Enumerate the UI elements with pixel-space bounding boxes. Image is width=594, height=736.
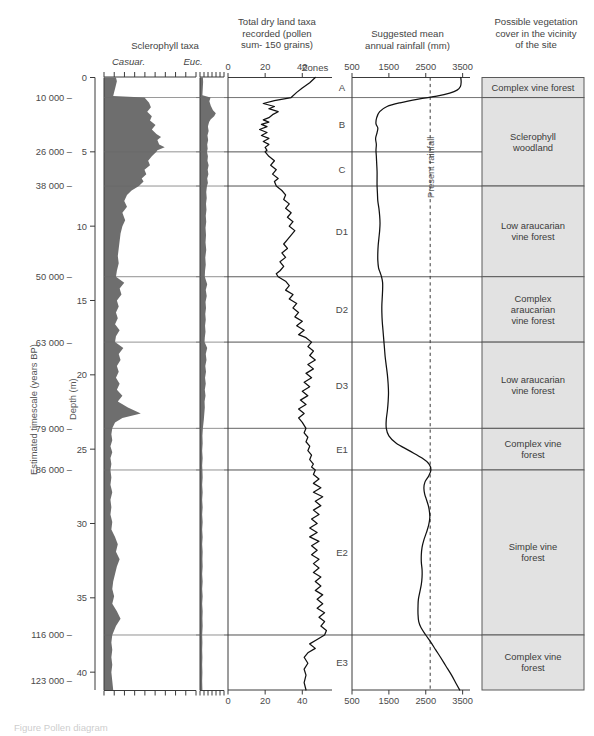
total-dry-land-taxa-curve (260, 78, 327, 691)
vegetation-label: woodland (512, 142, 553, 153)
rainfall-bottom-tick-label: 2500 (415, 696, 436, 706)
suggested-rainfall-curve (376, 78, 462, 691)
zone-label: D3 (336, 380, 348, 391)
zone-label: A (339, 82, 346, 93)
depth-tick-label: 35 (77, 593, 87, 603)
zone-label: E2 (336, 547, 348, 558)
vegetation-label: vine forest (511, 315, 555, 326)
timescale-tick-label: 38 000 – (36, 181, 73, 191)
rainfall-bottom-tick-label: 3500 (452, 696, 473, 706)
timescale-tick-label: 123 000 – (31, 676, 73, 686)
timescale-tick-label: 26 000 – (36, 147, 73, 157)
timescale-tick-label: 10 000 – (36, 93, 73, 103)
depth-tick-label: 40 (77, 668, 87, 678)
zone-label: E3 (336, 657, 348, 668)
vegetation-label: Complex vine (505, 438, 562, 449)
vegetation-label: Complex vine (505, 651, 562, 662)
depth-tick-label: 25 (77, 445, 87, 455)
diagram-canvas: 051015202530354010 000 –26 000 –38 000 –… (0, 0, 594, 736)
rainfall-bottom-tick-label: 500 (344, 696, 360, 706)
depth-tick-label: 10 (77, 222, 87, 232)
vegetation-label: vine forest (511, 231, 555, 242)
rainfall-top-tick-label: 2500 (415, 62, 436, 72)
taxa-bottom-tick-label: 40 (297, 696, 307, 706)
rainfall-top-tick-label: 500 (344, 62, 360, 72)
figure-caption: Figure Pollen diagram (14, 722, 108, 733)
timescale-tick-label: 50 000 – (36, 272, 73, 282)
vegetation-label: Complex vine forest (492, 82, 575, 93)
taxa-top-tick-label: 0 (225, 62, 230, 72)
taxa-bottom-tick-label: 0 (225, 696, 230, 706)
timescale-tick-label: 116 000 – (31, 630, 72, 640)
depth-tick-label: 5 (82, 147, 87, 157)
rainfall-bottom-tick-label: 1500 (379, 696, 400, 706)
pollen-diagram-figure: Sclerophyll taxa Casuar. Euc. Total dry … (0, 0, 594, 736)
vegetation-label: Complex (515, 293, 552, 304)
vegetation-label: Low araucarian (501, 220, 565, 231)
zone-label: C (339, 164, 346, 175)
zone-label: D2 (336, 304, 348, 315)
depth-tick-label: 15 (77, 296, 87, 306)
depth-tick-label: 0 (82, 73, 87, 83)
timescale-tick-label: 63 000 – (36, 338, 73, 348)
vegetation-label: Sclerophyll (510, 131, 556, 142)
vegetation-label: forest (521, 449, 545, 460)
rainfall-top-tick-label: 1500 (379, 62, 400, 72)
depth-tick-label: 20 (77, 370, 87, 380)
depth-tick-label: 30 (77, 519, 87, 529)
vegetation-label: forest (521, 552, 545, 563)
zone-label: D1 (336, 226, 348, 237)
vegetation-label: forest (521, 662, 545, 673)
zone-label: E1 (336, 444, 348, 455)
vegetation-label: Low araucarian (501, 374, 565, 385)
timescale-tick-label: 79 000 – (36, 424, 73, 434)
zone-label: B (339, 119, 345, 130)
vegetation-label: Simple vine (509, 541, 557, 552)
vegetation-label: vine forest (511, 385, 555, 396)
timescale-tick-label: 86 000 – (36, 465, 73, 475)
vegetation-label: araucarian (511, 304, 555, 315)
taxa-bottom-tick-label: 20 (260, 696, 270, 706)
taxa-top-tick-label: 20 (260, 62, 270, 72)
taxa-top-tick-label: 40 (297, 62, 307, 72)
rainfall-top-tick-label: 3500 (452, 62, 473, 72)
